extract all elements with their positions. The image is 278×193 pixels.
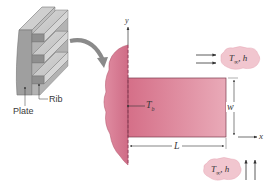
zoom-arrow xyxy=(70,40,103,60)
plate-label: Plate xyxy=(13,107,34,116)
base-temperature-label: Tb xyxy=(146,100,155,112)
ambient-condition-top: T∞, h xyxy=(229,54,247,65)
diagram-graphics xyxy=(0,0,278,193)
plate-rib-inset xyxy=(16,7,68,106)
fin xyxy=(128,78,226,137)
fin-diagram: Rib Plate y x Tb w L T∞, h T∞, h xyxy=(0,0,278,193)
y-axis-label: y xyxy=(125,17,129,25)
ambient-condition-bottom: T∞, h xyxy=(211,165,229,176)
x-axis-label: x xyxy=(259,132,263,141)
width-label: w xyxy=(226,102,235,112)
rib-label: Rib xyxy=(49,95,63,104)
length-label: L xyxy=(172,141,182,151)
wall xyxy=(104,45,128,165)
